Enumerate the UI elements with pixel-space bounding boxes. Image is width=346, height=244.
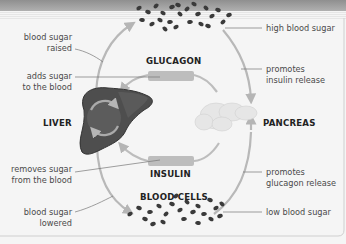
blood-cell [136,205,143,211]
top-stripes [0,13,346,19]
label-promotes-glucagon: promotes glucagon release [266,167,336,188]
blood-cell [177,207,184,213]
blood-cell [173,24,180,30]
blood-cell [157,17,164,23]
blood-cell [142,216,149,222]
label-blood-sugar-lowered: blood sugar lowered [24,207,72,228]
label-adds-sugar: adds sugar to the blood [22,71,72,92]
blood-cells-label: BLOOD CELLS [140,192,208,202]
blood-cell [195,203,202,209]
arrow-pancreas-to-glucagon [194,75,217,92]
blood-cell [190,209,197,215]
label-removes-sugar: removes sugar from the blood [11,164,72,185]
arrow-insulin-to-liver [121,145,148,161]
blood-cell [226,12,233,18]
insulin-label: INSULIN [150,169,191,179]
pancreas-label: PANCREAS [263,118,316,128]
blood-cell [147,210,153,215]
blood-cell [201,212,207,217]
label-blood-sugar-raised: blood sugar raised [24,32,72,53]
blood-cell [162,26,169,33]
blood-cell [163,211,170,218]
liver-icon [80,88,152,155]
arrow-liver-to-top [96,24,132,92]
label-high-blood-sugar: high blood sugar [266,23,335,34]
label-promotes-insulin: promotes insulin release [266,64,325,85]
arrow-bottom-to-pancreas [214,132,251,214]
blood-cell [217,213,224,219]
blood-cell [205,23,212,29]
glucagon-box [148,71,194,81]
blood-cell [187,20,193,25]
blood-cell [156,203,163,209]
arrow-liver-to-bottom [97,146,130,212]
pancreas-icon [195,103,257,131]
blood-cell [150,221,157,227]
blood-cell [195,11,202,17]
blood-cell [198,21,205,27]
blood-cell [181,217,187,222]
blood-cell [208,216,215,222]
liver-label: LIVER [43,118,72,128]
blood-cell [160,219,167,225]
blood-cell [169,201,176,207]
arrow-pancreas-to-insulin [194,143,219,161]
blood-cell [149,21,156,27]
arrow-top-to-pancreas [223,30,251,100]
blood-cell [195,221,201,226]
blood-sugar-diagram: GLUCAGON INSULIN LIVER PANCREAS BLOOD CE… [0,0,346,244]
blood-cell [220,19,227,26]
blood-cell [209,13,216,19]
glucagon-label: GLUCAGON [146,56,201,66]
blood-cell [167,20,173,25]
label-low-blood-sugar: low blood sugar [266,207,331,218]
